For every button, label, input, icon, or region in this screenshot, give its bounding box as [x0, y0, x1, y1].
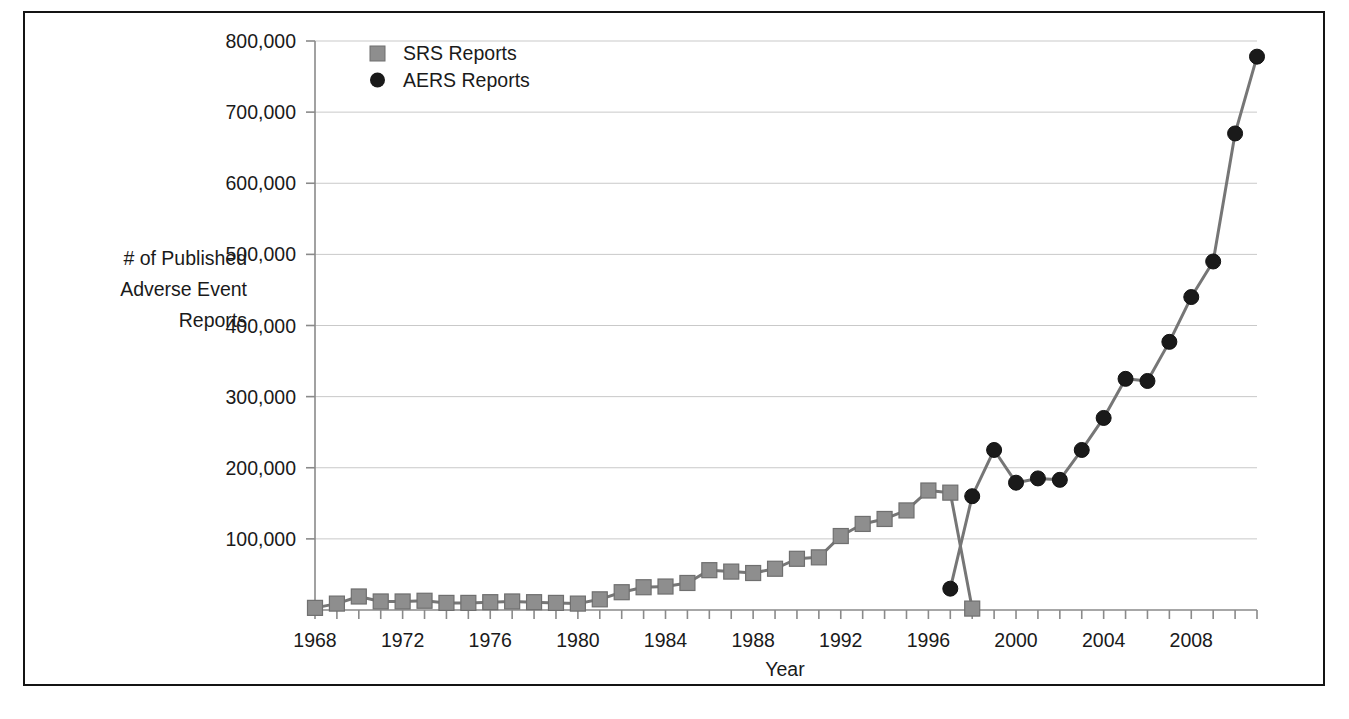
x-axis-title: Year	[765, 658, 805, 680]
data-point-marker	[1052, 472, 1067, 487]
data-series-layer	[308, 49, 1265, 616]
y-tick-label: 100,000	[226, 528, 297, 550]
y-axis-title-line-3: Reports	[179, 309, 248, 331]
data-point-marker	[548, 595, 563, 610]
legend-item-srs: SRS Reports	[370, 42, 517, 64]
data-point-marker	[724, 564, 739, 579]
data-point-marker	[614, 585, 629, 600]
y-axis-title-line-2: Adverse Event	[120, 278, 247, 300]
data-point-marker	[746, 566, 761, 581]
data-point-marker	[373, 594, 388, 609]
data-point-marker	[702, 563, 717, 578]
data-point-marker	[1140, 373, 1155, 388]
x-tick-label: 1992	[819, 629, 862, 651]
data-point-marker	[461, 595, 476, 610]
y-tick-label: 600,000	[226, 172, 297, 194]
y-tick-label: 700,000	[226, 101, 297, 123]
data-point-marker	[505, 594, 520, 609]
legend-label-srs: SRS Reports	[403, 42, 517, 64]
legend-item-aers: AERS Reports	[370, 69, 530, 91]
data-point-marker	[789, 551, 804, 566]
data-point-marker	[483, 595, 498, 610]
data-point-marker	[439, 595, 454, 610]
data-point-marker	[768, 561, 783, 576]
x-tick-label: 1988	[731, 629, 774, 651]
data-point-marker	[308, 600, 323, 615]
data-point-marker	[877, 511, 892, 526]
y-tick-label: 300,000	[226, 386, 297, 408]
data-point-marker	[1228, 126, 1243, 141]
x-tick-label: 1984	[644, 629, 688, 651]
data-point-marker	[395, 594, 410, 609]
data-point-marker	[965, 601, 980, 616]
legend-label-aers: AERS Reports	[403, 69, 530, 91]
data-point-marker	[943, 581, 958, 596]
figure-frame: 800,000700,000600,000500,000400,000300,0…	[23, 11, 1325, 686]
series-srs	[308, 483, 980, 616]
legend-marker-square	[370, 46, 385, 61]
data-point-marker	[965, 489, 980, 504]
x-tick-label: 2008	[1170, 629, 1213, 651]
x-tick-label: 1996	[907, 629, 950, 651]
y-axis-title: # of Published Adverse Event Reports	[120, 247, 247, 331]
data-point-marker	[833, 529, 848, 544]
data-point-marker	[921, 483, 936, 498]
data-point-marker	[527, 595, 542, 610]
data-point-marker	[899, 503, 914, 518]
data-point-marker	[811, 550, 826, 565]
data-point-marker	[680, 575, 695, 590]
data-point-marker	[1184, 290, 1199, 305]
y-gridlines	[315, 41, 1257, 539]
x-axis-ticks	[315, 610, 1257, 619]
series-line	[950, 57, 1257, 589]
data-point-marker	[1074, 442, 1089, 457]
data-point-marker	[987, 442, 1002, 457]
x-tick-label: 2000	[994, 629, 1038, 651]
x-tick-label: 1980	[556, 629, 600, 651]
data-point-marker	[1162, 334, 1177, 349]
data-point-marker	[1206, 254, 1221, 269]
data-point-marker	[943, 485, 958, 500]
data-point-marker	[1250, 49, 1265, 64]
data-point-marker	[636, 580, 651, 595]
screenshot-root: 800,000700,000600,000500,000400,000300,0…	[0, 0, 1349, 719]
y-tick-label: 200,000	[226, 457, 297, 479]
adverse-event-reports-chart: 800,000700,000600,000500,000400,000300,0…	[25, 13, 1323, 684]
data-point-marker	[1009, 475, 1024, 490]
x-axis-tick-labels: 1968197219761980198419881992199620002004…	[293, 629, 1213, 651]
y-axis-title-line-1: # of Published	[123, 247, 247, 269]
data-point-marker	[658, 579, 673, 594]
x-tick-label: 1972	[381, 629, 424, 651]
y-axis-ticks	[306, 41, 315, 539]
data-point-marker	[351, 589, 366, 604]
data-point-marker	[329, 596, 344, 611]
data-point-marker	[592, 592, 607, 607]
data-point-marker	[1118, 371, 1133, 386]
data-point-marker	[417, 593, 432, 608]
x-tick-label: 1968	[293, 629, 336, 651]
data-point-marker	[1096, 410, 1111, 425]
x-tick-label: 2004	[1082, 629, 1126, 651]
data-point-marker	[570, 596, 585, 611]
series-aers	[943, 49, 1265, 596]
x-tick-label: 1976	[469, 629, 512, 651]
legend-marker-circle	[370, 73, 385, 88]
data-point-marker	[855, 516, 870, 531]
y-tick-label: 800,000	[226, 30, 297, 52]
chart-legend: SRS Reports AERS Reports	[370, 42, 530, 91]
data-point-marker	[1030, 471, 1045, 486]
